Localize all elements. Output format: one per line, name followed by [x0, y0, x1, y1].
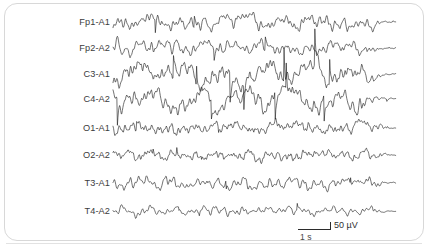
eeg-trace-o1-a1: [113, 118, 396, 135]
calibration-scale-bar: 50 µV 1 s: [298, 218, 428, 248]
eeg-trace-o2-a2: [113, 148, 396, 164]
eeg-trace-fp2-a2: [113, 36, 396, 60]
eeg-trace-fp1-a1: [113, 12, 396, 33]
eeg-trace-t4-a2: [113, 203, 396, 218]
eeg-trace-c4-a2: [113, 63, 396, 125]
calibration-time-bar: [298, 229, 331, 230]
eeg-traces: [0, 0, 434, 251]
calibration-time-label: 1 s: [300, 232, 311, 242]
calibration-amplitude-label: 50 µV: [334, 220, 358, 230]
calibration-amplitude-bar: [330, 222, 331, 230]
eeg-trace-t3-a1: [113, 176, 396, 192]
eeg-recording-figure: Fp1-A1Fp2-A2C3-A1C4-A2O1-A1O2-A2T3-A1T4-…: [0, 0, 434, 251]
